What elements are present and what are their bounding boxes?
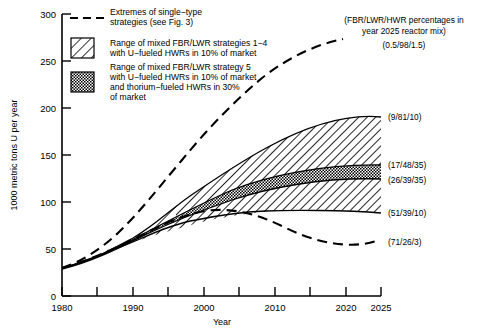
legend-hatch-swatch [71, 38, 94, 58]
y-axis-title: 1000 metric tons U per year [9, 99, 19, 210]
legend-label-line-2: with U−fueled HWRs in 10% of market [109, 48, 257, 58]
end-label-71-26-3: (71/26/3) [388, 237, 422, 247]
y-tick-label-300: 300 [40, 9, 56, 20]
legend-label-line-1: Extremes of single−type [110, 7, 202, 17]
y-tick-label-0: 0 [51, 291, 56, 302]
end-label-0-5-98-1-5: (0.5/98/1.5) [383, 40, 426, 50]
legend-dotted-swatch [71, 72, 94, 92]
end-label-26-39-35: (26/39/35) [388, 175, 426, 185]
legend-label-line-2: with U−fueled HWRs in 10% of market [109, 72, 257, 82]
y-tick-label-100: 100 [40, 197, 56, 208]
legend-label-line-2: strategies (see Fig. 3) [110, 17, 193, 27]
x-tick-label-2020: 2020 [335, 302, 356, 313]
x-tick-label-1990: 1990 [122, 302, 143, 313]
y-tick-label-150: 150 [40, 150, 56, 161]
legend-label-line-4: of market [110, 92, 146, 102]
x-tick-label-2025: 2025 [370, 302, 391, 313]
legend-label-line-1: Range of mixed FBR/LWR strategy 5 [110, 62, 251, 72]
annotation-line-2: year 2025 reactor mix) [362, 26, 446, 36]
annotation-line-1: (FBR/LWR/HWR percentages in [344, 15, 464, 25]
x-tick-label-1980: 1980 [51, 302, 72, 313]
y-tick-label-250: 250 [40, 56, 56, 67]
x-tick-label-2010: 2010 [264, 302, 285, 313]
x-tick-label-2000: 2000 [193, 302, 214, 313]
legend-label-line-1: Range of mixed FBR/LWR strategies 1−4 [110, 38, 267, 48]
x-axis-title: Year [213, 317, 231, 327]
end-label-17-48-35: (17/48/35) [388, 160, 426, 170]
legend-label-line-3: and thorium−fueled HWRs in 30% [110, 82, 240, 92]
chart-figure: 300 250 200 150 100 50 0 1980 1990 2000 … [0, 0, 485, 332]
end-label-9-81-10: (9/81/10) [388, 112, 422, 122]
y-tick-label-200: 200 [40, 103, 56, 114]
y-tick-label-50: 50 [45, 244, 56, 255]
uranium-requirements-chart: 300 250 200 150 100 50 0 1980 1990 2000 … [0, 0, 485, 332]
end-label-51-39-10: (51/39/10) [388, 208, 426, 218]
